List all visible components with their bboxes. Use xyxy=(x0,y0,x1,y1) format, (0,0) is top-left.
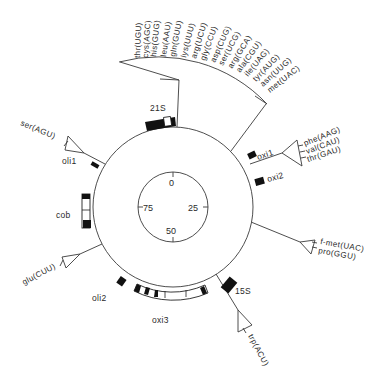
scale-tick-0: 0 xyxy=(169,178,174,188)
trna-label-ser: ser(AGU) xyxy=(19,119,57,141)
mitochondrial-genome-map: 0 25 50 75 21S oxi1 oxi2 15S oxi3 oli2 c… xyxy=(0,0,377,388)
gene-label-15S: 15S xyxy=(235,286,251,296)
gene-cob xyxy=(82,194,91,228)
gene-label-oxi2: oxi2 xyxy=(266,170,285,184)
gene-oxi2-block xyxy=(254,177,265,186)
trna-label-trp: trp(ACU) xyxy=(246,333,270,368)
gene-label-oli1: oli1 xyxy=(62,156,76,166)
trna-label-glu: glu(CUU) xyxy=(21,262,57,287)
fan-spoke xyxy=(231,104,266,151)
gene-oli1-block xyxy=(91,161,100,168)
scale-tick-75: 75 xyxy=(143,203,153,213)
gene-label-oli2: oli2 xyxy=(92,293,106,303)
scale-tick-25: 25 xyxy=(188,203,198,213)
trna-cluster-right-upper: phe(AAG) val(CAU) thr(GAU) xyxy=(302,125,342,164)
gene-label-oxi3: oxi3 xyxy=(152,315,169,325)
gene-oli2-block xyxy=(116,276,126,287)
gene-oxi3 xyxy=(134,284,208,300)
gene-label-21S: 21S xyxy=(150,103,166,113)
fan-spoke xyxy=(177,80,179,127)
scale-tick-50: 50 xyxy=(166,226,176,236)
genome-circle xyxy=(93,127,253,287)
gene-21S xyxy=(145,116,176,131)
gene-label-cob: cob xyxy=(56,210,71,220)
trna-cluster-right-lower: f-met(UAC) pro(GGU) xyxy=(318,237,365,262)
gene-label-oxi1: oxi1 xyxy=(256,147,275,162)
